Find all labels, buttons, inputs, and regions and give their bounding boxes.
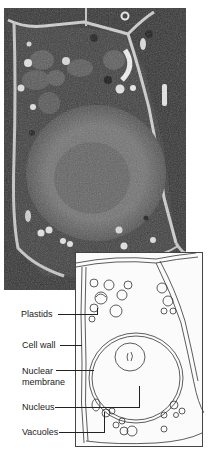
micrograph-photo bbox=[4, 8, 186, 290]
leader-nucleus-vertical bbox=[139, 386, 140, 408]
label-cell-wall: Cell wall bbox=[22, 340, 56, 350]
leader-nuclear-membrane bbox=[56, 370, 94, 371]
label-plastids: Plastids bbox=[21, 309, 53, 319]
cell-diagram bbox=[75, 252, 203, 447]
leader-nucleus bbox=[55, 407, 139, 408]
leader-plastids-tick bbox=[97, 308, 98, 315]
leader-vacuoles-vertical bbox=[104, 412, 105, 433]
label-vacuoles: Vacuoles bbox=[22, 427, 58, 437]
label-nuclear-membrane-2: membrane bbox=[22, 377, 65, 387]
cell-diagram-drawing bbox=[76, 253, 204, 448]
leader-vacuoles bbox=[59, 432, 104, 433]
label-nuclear-membrane-1: Nuclear bbox=[22, 366, 53, 376]
label-nucleus: Nucleus bbox=[22, 402, 55, 412]
leader-plastids bbox=[58, 314, 98, 315]
leader-cell-wall bbox=[60, 345, 82, 346]
